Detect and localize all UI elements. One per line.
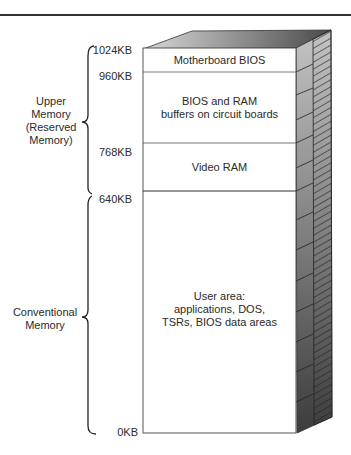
address-768kb: 768KB [76,146,132,159]
address-960kb: 960KB [76,70,132,83]
region-motherboard-bios: Motherboard BIOS [143,54,296,67]
region-video-ram: Video RAM [143,161,296,174]
upper-memory-brace [82,46,94,194]
conventional-memory-brace [82,196,96,434]
memory-block-graphic [0,0,351,455]
address-1024kb: 1024KB [76,44,132,57]
address-0kb: 0KB [82,426,138,439]
upper-memory-label: Upper Memory (Reserved Memory) [22,95,80,147]
conventional-memory-label: Conventional Memory [8,306,82,332]
region-bios-ram-buffers: BIOS and RAM buffers on circuit boards [143,95,296,121]
region-user-area: User area: applications, DOS, TSRs, BIOS… [143,290,296,329]
address-640kb: 640KB [76,193,132,206]
